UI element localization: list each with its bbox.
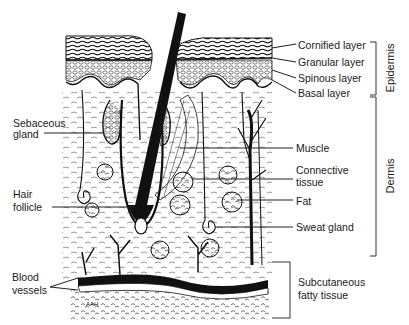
label-muscle: Muscle [296, 142, 329, 154]
label-vessels: vessels [12, 284, 47, 296]
label-hair: Hair [13, 188, 32, 200]
cornified-layer [66, 36, 152, 60]
label-cornified-layer: Cornified layer [298, 39, 366, 51]
label-basal-layer: Basal layer [298, 87, 350, 99]
spinous-layer [66, 60, 152, 85]
label-gland: gland [13, 128, 39, 140]
label-fatty-tissue: fatty tissue [298, 289, 348, 301]
label-follicle: follicle [13, 201, 42, 213]
label-dermis: Dermis [384, 151, 396, 201]
label-fat: Fat [296, 195, 311, 207]
label-subcutaneous: Subcutaneous [298, 276, 365, 288]
label-sweat-gland: Sweat gland [296, 221, 354, 233]
label-epidermis: Epidermis [384, 38, 396, 98]
label-connective: Connective [296, 164, 349, 176]
artist-signature: AAH [86, 301, 98, 307]
epidermis-bracket [370, 42, 376, 95]
label-spinous-layer: Spinous layer [298, 72, 362, 84]
label-granular-layer: Granular layer [298, 56, 365, 68]
dermis-bracket [370, 97, 376, 256]
label-blood: Blood [12, 271, 39, 283]
label-tissue: tissue [296, 176, 323, 188]
subcutaneous-bracket [272, 262, 290, 318]
